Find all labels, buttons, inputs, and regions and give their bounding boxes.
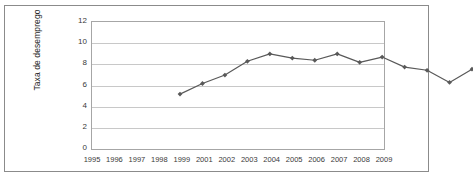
y-axis-tick-label: 0 xyxy=(65,144,87,152)
x-axis-tick-label: 2009 xyxy=(364,155,404,165)
data-point-marker xyxy=(290,56,295,61)
data-point-marker xyxy=(178,92,183,97)
plot-area xyxy=(91,21,385,150)
y-axis-tick-labels: 024681012 xyxy=(64,21,87,148)
data-point-marker xyxy=(200,81,205,86)
series-layer xyxy=(179,38,473,167)
y-axis-title: Taxa de desemprego xyxy=(32,0,42,105)
data-point-marker xyxy=(380,55,385,60)
line-chart: Taxa de desemprego 024681012 19951996199… xyxy=(4,5,429,172)
data-point-marker xyxy=(402,65,407,70)
data-point-marker xyxy=(267,51,272,56)
data-point-marker xyxy=(357,60,362,65)
y-axis-tick-label: 2 xyxy=(65,123,87,131)
y-axis-tick-label: 4 xyxy=(65,102,87,110)
y-axis-tick-label: 6 xyxy=(65,81,87,89)
data-point-marker xyxy=(335,51,340,56)
y-axis-tick-label: 10 xyxy=(65,38,87,46)
x-axis-tick-labels: 1995199619971998199920012002200320042005… xyxy=(91,155,385,169)
data-point-marker xyxy=(425,68,430,73)
y-axis-tick-label: 12 xyxy=(65,17,87,25)
y-axis-tick-label: 8 xyxy=(65,59,87,67)
data-point-marker xyxy=(312,58,317,63)
